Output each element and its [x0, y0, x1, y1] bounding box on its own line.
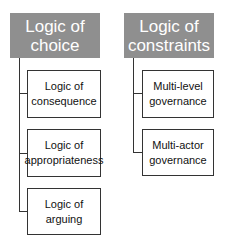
node-logic-of-arguing: Logic of arguing	[27, 188, 101, 235]
node-multi-level-governance: Multi-level governance	[142, 70, 214, 118]
connector-line	[133, 152, 142, 153]
connector-line	[133, 58, 134, 153]
node-logic-of-appropriateness: Logic of appropriateness	[27, 129, 101, 177]
node-multi-actor-governance: Multi-actor governance	[142, 129, 214, 176]
header-logic-of-choice: Logic of choice	[10, 13, 100, 58]
connector-line	[133, 93, 142, 94]
connector-line	[19, 93, 27, 94]
header-logic-of-constraints: Logic of constraints	[124, 13, 214, 58]
node-logic-of-consequence: Logic of consequence	[27, 70, 101, 118]
connector-line	[19, 211, 27, 212]
connector-line	[19, 58, 20, 212]
